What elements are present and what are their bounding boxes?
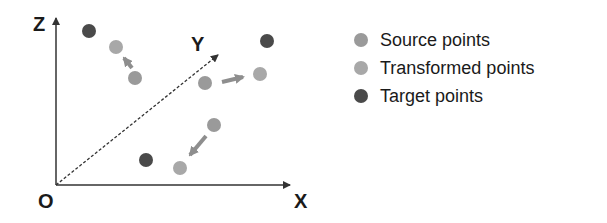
legend-label: Target points <box>380 86 483 107</box>
transformed-point <box>109 40 123 54</box>
origin-label: O <box>38 190 54 213</box>
transform-arrow-2 <box>222 77 243 82</box>
target-point <box>139 153 153 167</box>
x-axis-label: X <box>294 190 307 213</box>
transform-arrow-1 <box>124 58 132 68</box>
y-axis-label: Y <box>191 33 204 56</box>
target-dot-icon <box>354 89 368 103</box>
source-point <box>128 71 142 85</box>
target-point <box>260 34 274 48</box>
source-point <box>207 118 221 132</box>
transform-arrow-3 <box>190 136 206 155</box>
source-point <box>198 76 212 90</box>
source-dot-icon <box>354 33 368 47</box>
z-axis-label: Z <box>33 13 45 36</box>
legend-label: Transformed points <box>380 58 534 79</box>
transformed-point <box>253 67 267 81</box>
legend: Source points Transformed points Target … <box>354 26 534 110</box>
legend-label: Source points <box>380 30 490 51</box>
transformed-point <box>173 161 187 175</box>
legend-item-transformed: Transformed points <box>354 54 534 82</box>
legend-item-source: Source points <box>354 26 534 54</box>
transformed-dot-icon <box>354 61 368 75</box>
legend-item-target: Target points <box>354 82 534 110</box>
target-point <box>82 24 96 38</box>
